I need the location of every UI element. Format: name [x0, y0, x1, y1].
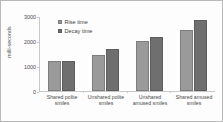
y-tick-mark [37, 42, 39, 43]
legend-item[interactable]: Decay time [58, 28, 92, 34]
y-tick-label: 1000 [24, 64, 36, 70]
x-tick-label: Shared polite smiles [40, 94, 84, 106]
y-tick-mark [37, 92, 39, 93]
legend-swatch-icon [58, 29, 62, 33]
x-tick-mark [127, 91, 128, 93]
x-tick-label: Shared amused smiles [172, 94, 216, 106]
bar-rise-time[interactable] [136, 41, 149, 91]
y-tick-mark [37, 17, 39, 18]
legend-label: Decay time [65, 28, 93, 34]
bar-rise-time[interactable] [180, 30, 193, 91]
chart-legend: Rise timeDecay time [58, 19, 92, 37]
bar-group [171, 17, 215, 91]
bar-decay-time[interactable] [194, 20, 207, 91]
legend-swatch-icon [58, 20, 62, 24]
bar-decay-time[interactable] [106, 49, 119, 91]
x-tick-mark [170, 91, 171, 93]
x-tick-label: Unshared polite smiles [84, 94, 128, 106]
legend-label: Rise time [65, 19, 88, 25]
x-tick-label: Unshared amused smiles [128, 94, 172, 106]
y-tick-label: 3000 [24, 14, 36, 20]
y-tick-mark [37, 67, 39, 68]
y-tick-label: 0 [33, 89, 36, 95]
bar-rise-time[interactable] [92, 55, 105, 91]
bar-group [128, 17, 172, 91]
bar-rise-time[interactable] [48, 61, 61, 91]
bar-chart-figure: milli-seconds 0100020003000 Shared polit… [0, 0, 223, 122]
legend-item[interactable]: Rise time [58, 19, 92, 25]
x-axis-tick-labels: Shared polite smilesUnshared polite smil… [40, 94, 216, 106]
bar-decay-time[interactable] [62, 61, 75, 91]
y-tick-label: 2000 [24, 39, 36, 45]
bar-decay-time[interactable] [150, 37, 163, 91]
y-axis-title: milli-seconds [6, 20, 12, 64]
x-tick-mark [83, 91, 84, 93]
